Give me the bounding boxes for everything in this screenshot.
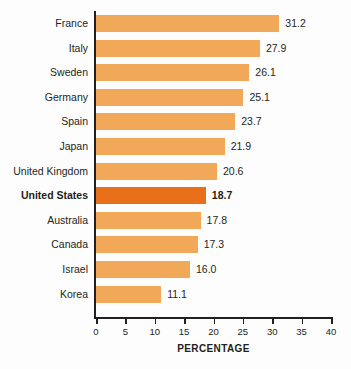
bar-value-label: 18.7 bbox=[212, 187, 232, 204]
bar-row: Spain23.7 bbox=[0, 113, 351, 130]
x-axis-tick bbox=[243, 319, 245, 324]
bar bbox=[96, 187, 206, 204]
bar-value-label: 21.9 bbox=[231, 138, 251, 155]
x-axis-tick bbox=[184, 319, 186, 324]
bar-row: United States18.7 bbox=[0, 187, 351, 204]
bar bbox=[96, 286, 161, 303]
bar-row: Sweden26.1 bbox=[0, 64, 351, 81]
bar-value-label: 16.0 bbox=[196, 261, 216, 278]
x-axis-tick bbox=[155, 319, 157, 324]
x-axis-tick bbox=[214, 319, 216, 324]
bar-category-label: Japan bbox=[0, 138, 88, 155]
bar bbox=[96, 236, 198, 253]
bar-category-label: Germany bbox=[0, 89, 88, 106]
bar-category-label: United States bbox=[0, 187, 88, 204]
bar-row: Italy27.9 bbox=[0, 40, 351, 57]
x-axis-tick-label: 25 bbox=[228, 326, 258, 337]
bar bbox=[96, 113, 235, 130]
x-axis-tick bbox=[96, 319, 98, 324]
bar-row: Germany25.1 bbox=[0, 89, 351, 106]
bar-category-label: United Kingdom bbox=[0, 163, 88, 180]
x-axis-tick bbox=[302, 319, 304, 324]
bar bbox=[96, 212, 201, 229]
bar-category-label: Italy bbox=[0, 40, 88, 57]
x-axis-tick bbox=[125, 319, 127, 324]
bar-value-label: 27.9 bbox=[266, 40, 286, 57]
bar-value-label: 25.1 bbox=[249, 89, 269, 106]
x-axis-tick-label: 35 bbox=[287, 326, 317, 337]
x-axis-tick-label: 5 bbox=[110, 326, 140, 337]
bar bbox=[96, 138, 225, 155]
bar-category-label: Australia bbox=[0, 212, 88, 229]
bar-row: France31.2 bbox=[0, 15, 351, 32]
bar-value-label: 17.3 bbox=[204, 236, 224, 253]
x-axis-tick-label: 15 bbox=[169, 326, 199, 337]
x-axis-title: PERCENTAGE bbox=[96, 343, 331, 354]
bar-value-label: 11.1 bbox=[167, 286, 187, 303]
bar bbox=[96, 64, 249, 81]
bar-row: United Kingdom20.6 bbox=[0, 163, 351, 180]
x-axis-tick-label: 20 bbox=[199, 326, 229, 337]
bar-row: Canada17.3 bbox=[0, 236, 351, 253]
bar-value-label: 17.8 bbox=[207, 212, 227, 229]
bar bbox=[96, 261, 190, 278]
bar bbox=[96, 163, 217, 180]
x-axis-tick-label: 10 bbox=[140, 326, 170, 337]
bar-value-label: 23.7 bbox=[241, 113, 261, 130]
bar-row: Israel16.0 bbox=[0, 261, 351, 278]
x-axis-tick-label: 0 bbox=[81, 326, 111, 337]
bar-row: Korea11.1 bbox=[0, 286, 351, 303]
bar-row: Australia17.8 bbox=[0, 212, 351, 229]
bar-category-label: Korea bbox=[0, 286, 88, 303]
bar-category-label: Sweden bbox=[0, 64, 88, 81]
bar bbox=[96, 40, 260, 57]
bar-category-label: Canada bbox=[0, 236, 88, 253]
bar bbox=[96, 15, 279, 32]
bar-row: Japan21.9 bbox=[0, 138, 351, 155]
bar bbox=[96, 89, 243, 106]
bar-category-label: France bbox=[0, 15, 88, 32]
bar-category-label: Spain bbox=[0, 113, 88, 130]
plot-area: France31.2Italy27.9Sweden26.1Germany25.1… bbox=[0, 0, 351, 369]
x-axis-tick-label: 30 bbox=[257, 326, 287, 337]
x-axis-tick bbox=[331, 319, 333, 324]
bar-category-label: Israel bbox=[0, 261, 88, 278]
bar-value-label: 20.6 bbox=[223, 163, 243, 180]
x-axis-tick bbox=[272, 319, 274, 324]
x-axis-tick-label: 40 bbox=[316, 326, 346, 337]
bar-chart: France31.2Italy27.9Sweden26.1Germany25.1… bbox=[0, 0, 351, 369]
bar-value-label: 31.2 bbox=[285, 15, 305, 32]
bar-value-label: 26.1 bbox=[255, 64, 275, 81]
